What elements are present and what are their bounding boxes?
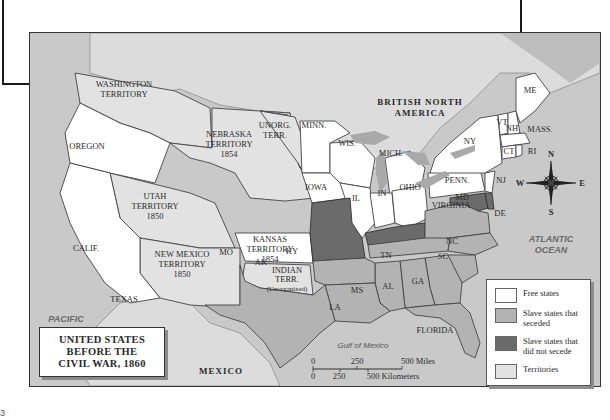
label-nebraska-territory: NEBRASKA: [206, 129, 253, 139]
label-delaware: DE: [494, 208, 505, 218]
label-california: CALIF.: [73, 243, 99, 253]
map-legend: Free states Slave states that seceded Sl…: [486, 279, 591, 386]
label-washington-territory: WASHINGTON: [96, 79, 153, 89]
label-new-mexico-territory: NEW MEXICO: [155, 249, 210, 259]
label-unorganized-territory: UNORG.: [259, 120, 291, 130]
legend-item-not-seceded: Slave states that did not secede: [495, 336, 585, 356]
map-title-line-1: UNITED STATES: [59, 334, 145, 346]
label-indiana: IN: [378, 188, 387, 198]
label-florida: FLORIDA: [417, 325, 455, 335]
compass-south: S: [549, 207, 554, 217]
state-new-jersey: [485, 171, 495, 193]
legend-swatch-territories: [495, 364, 517, 379]
map-title: UNITED STATES BEFORE THE CIVIL WAR, 1860: [39, 327, 165, 377]
scale-miles-500: 500 Miles: [401, 356, 435, 366]
label-missouri: MO: [219, 247, 233, 257]
label-wisconsin: WIS.: [338, 138, 356, 148]
label-british-north-america: BRITISH NORTH: [377, 97, 462, 107]
legend-swatch-not-seceded: [495, 336, 517, 351]
legend-item-seceded: Slave states that seceded: [495, 308, 585, 328]
label-mexico: MEXICO: [199, 366, 243, 376]
state-rhode-island: [516, 145, 522, 157]
label-alabama: AL: [382, 281, 393, 291]
legend-swatch-free: [495, 288, 517, 303]
label-new-jersey: NJ: [496, 175, 506, 185]
compass-rose-icon: N S E W: [516, 149, 585, 217]
label-pacific-ocean: PACIFIC: [48, 314, 84, 324]
label-pennsylvania: PENN.: [445, 175, 469, 185]
state-arkansas: [313, 258, 375, 285]
label-utah-territory: UTAH: [144, 191, 167, 201]
label-arkansas: AK: [255, 257, 268, 267]
label-maine: ME: [524, 85, 537, 95]
label-connecticut: CT: [504, 146, 516, 156]
label-kentucky: KY: [286, 246, 298, 256]
label-north-carolina: NC: [446, 236, 458, 246]
label-rhode-island: RI: [528, 146, 537, 156]
label-oregon: OREGON: [69, 141, 104, 151]
label-tennessee: TN: [380, 250, 391, 260]
map-title-line-3: CIVIL WAR, 1860: [58, 358, 145, 370]
svg-text:UNORG.TERR.: UNORG.TERR.: [259, 120, 291, 140]
svg-text:ATLANTICOCEAN: ATLANTICOCEAN: [528, 234, 574, 255]
label-mississippi: MS: [351, 285, 364, 295]
scale-miles-0: 0: [311, 356, 315, 366]
scale-km-0: 0: [311, 371, 315, 381]
label-gulf-of-mexico: Gulf of Mexico: [337, 341, 389, 350]
compass-north: N: [548, 149, 555, 159]
label-atlantic-ocean: ATLANTIC: [528, 234, 574, 244]
label-michigan: MICH.: [379, 148, 403, 158]
label-maryland: MD: [455, 192, 469, 202]
label-iowa: IOWA: [305, 182, 328, 192]
page-mark: 3: [0, 408, 5, 418]
legend-item-territories: Territories: [495, 364, 585, 379]
scale-bar: 0 250 500 Miles 0 250 500 Kilometers: [311, 356, 435, 381]
scale-km-500: 500 Kilometers: [367, 371, 420, 381]
legend-swatch-seceded: [495, 308, 517, 323]
label-new-hampshire: NH: [506, 123, 518, 133]
label-texas: TEXAS: [110, 294, 138, 304]
compass-east: E: [579, 178, 585, 188]
svg-text:WASHINGTONTERRITORY: WASHINGTONTERRITORY: [96, 79, 153, 99]
map-title-line-2: BEFORE THE: [67, 346, 138, 358]
scale-km-250: 250: [333, 371, 346, 381]
label-south-carolina: SC: [438, 251, 449, 261]
label-louisiana: LA: [329, 302, 341, 312]
scale-miles-250: 250: [351, 356, 364, 366]
label-massachusetts: MASS.: [527, 124, 552, 134]
label-minnesota: MINN.: [302, 120, 327, 130]
label-illinois: IL: [352, 193, 360, 203]
label-kansas-territory: KANSAS: [253, 234, 287, 244]
legend-item-free-states: Free states: [495, 288, 585, 303]
label-new-york: NY: [464, 136, 476, 146]
label-ohio: OHIO: [399, 182, 420, 192]
label-georgia: GA: [412, 276, 425, 286]
compass-west: W: [516, 178, 525, 188]
